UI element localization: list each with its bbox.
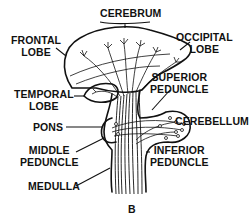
cerebellum-label: CEREBELLUM <box>175 115 249 127</box>
middle-peduncle-label-line2: PEDUNCLE <box>20 156 79 168</box>
inferior-peduncle-label: INFERIOR PEDUNCLE <box>150 144 209 168</box>
temporal-lobe-label-line2: LOBE <box>14 100 74 112</box>
middle-peduncle-label-line1: MIDDLE <box>20 144 79 156</box>
temporal-lobe-label-line1: TEMPORAL <box>14 88 74 100</box>
brainstem-right-outline <box>138 90 191 192</box>
medulla-leader <box>76 168 110 186</box>
temporal-lobe-label: TEMPORAL LOBE <box>14 88 74 112</box>
middle-peduncle-label: MIDDLE PEDUNCLE <box>20 144 79 168</box>
superior-peduncle-label: SUPERIOR PEDUNCLE <box>150 71 209 95</box>
inferior-peduncle-label-line1: INFERIOR <box>150 144 209 156</box>
occipital-lobe-label: OCCIPITAL LOBE <box>176 31 233 55</box>
occipital-lobe-label-line1: OCCIPITAL <box>176 31 233 43</box>
superior-peduncle-label-line1: SUPERIOR <box>150 71 209 83</box>
frontal-lobe-label-line2: LOBE <box>11 46 61 58</box>
panel-label: B <box>128 203 136 215</box>
frontal-lobe-label: FRONTAL LOBE <box>11 34 61 58</box>
cerebrum-leader <box>100 22 150 28</box>
occipital-lobe-label-line2: LOBE <box>176 43 233 55</box>
inferior-peduncle-label-line2: PEDUNCLE <box>150 156 209 168</box>
brain-pathways-diagram: CEREBRUM FRONTAL LOBE OCCIPITAL LOBE TEM… <box>0 0 252 224</box>
superior-peduncle-label-line2: PEDUNCLE <box>150 83 209 95</box>
temporal-lobe-outline <box>84 84 118 103</box>
middle-peduncle-leader <box>76 138 104 152</box>
medulla-label: MEDULLA <box>28 180 80 192</box>
pons-label: PONS <box>33 121 63 133</box>
frontal-lobe-label-line1: FRONTAL <box>11 34 61 46</box>
cerebrum-label: CEREBRUM <box>100 7 161 19</box>
